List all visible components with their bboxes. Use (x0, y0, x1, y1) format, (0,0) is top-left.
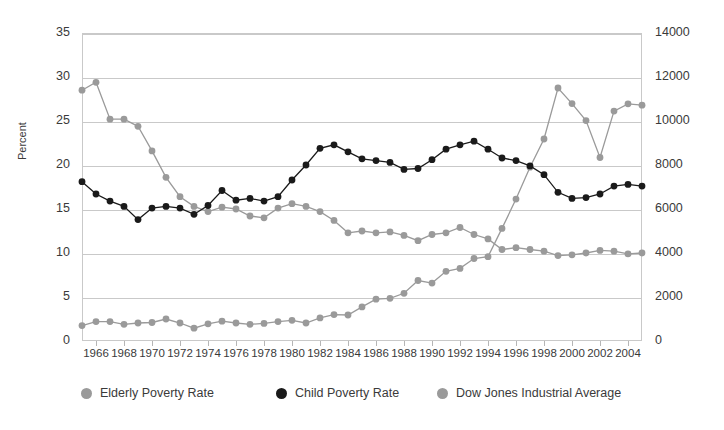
series-child-poverty-rate (79, 138, 646, 223)
data-point (93, 191, 100, 198)
data-point (149, 319, 156, 326)
data-point (177, 193, 184, 200)
data-point (555, 252, 562, 259)
data-point (513, 196, 520, 203)
data-point (317, 208, 324, 215)
legend-marker-icon (437, 388, 448, 399)
data-point (611, 183, 618, 190)
legend-label: Dow Jones Industrial Average (456, 386, 621, 400)
data-point (401, 290, 408, 297)
data-point (443, 268, 450, 275)
data-point (149, 148, 156, 155)
data-point (597, 191, 604, 198)
data-point (163, 203, 170, 210)
data-point (345, 229, 352, 236)
data-point (191, 325, 198, 332)
data-point (93, 79, 100, 86)
data-point (317, 315, 324, 322)
data-point (79, 87, 86, 94)
data-point (555, 189, 562, 196)
data-point (107, 198, 114, 205)
chart-legend: Elderly Poverty RateChild Poverty RateDo… (0, 383, 724, 407)
data-point (261, 198, 268, 205)
data-point (499, 246, 506, 253)
data-point (331, 217, 338, 224)
data-point (527, 163, 534, 170)
data-point (331, 311, 338, 318)
data-point (597, 247, 604, 254)
data-point (247, 321, 254, 328)
legend-item-child-poverty-rate[interactable]: Child Poverty Rate (276, 386, 399, 400)
data-point (233, 206, 240, 213)
data-point (177, 205, 184, 212)
data-point (345, 312, 352, 319)
data-point (359, 304, 366, 311)
data-point (317, 145, 324, 152)
data-point (107, 116, 114, 123)
data-point (443, 146, 450, 153)
data-point (233, 320, 240, 327)
data-point (639, 102, 646, 109)
data-point (135, 320, 142, 327)
data-point (331, 141, 338, 148)
data-point (583, 250, 590, 257)
data-point (569, 195, 576, 202)
data-point (191, 203, 198, 210)
legend-label: Elderly Poverty Rate (100, 386, 214, 400)
data-point (499, 225, 506, 232)
data-point (79, 322, 86, 329)
chart-root: Percent 05101520253035 02000400060008000… (0, 0, 724, 430)
data-point (219, 318, 226, 325)
data-point (303, 320, 310, 327)
data-point (471, 231, 478, 238)
data-point (429, 280, 436, 287)
data-point (513, 157, 520, 164)
data-point (583, 194, 590, 201)
data-point (135, 216, 142, 223)
data-point (387, 229, 394, 236)
data-point (93, 318, 100, 325)
data-point (401, 166, 408, 173)
data-point (457, 224, 464, 231)
legend-item-dow-jones-industrial-average[interactable]: Dow Jones Industrial Average (437, 386, 621, 400)
data-point (541, 171, 548, 178)
series-elderly-poverty-rate (79, 79, 646, 259)
data-point (429, 231, 436, 238)
data-point (611, 108, 618, 115)
data-point (485, 146, 492, 153)
series-layer (0, 0, 724, 430)
data-point (443, 229, 450, 236)
data-point (247, 195, 254, 202)
data-point (219, 204, 226, 211)
data-point (359, 155, 366, 162)
data-point (541, 248, 548, 255)
data-point (499, 155, 506, 162)
data-point (485, 253, 492, 260)
data-point (569, 251, 576, 258)
data-point (275, 193, 282, 200)
legend-item-elderly-poverty-rate[interactable]: Elderly Poverty Rate (81, 386, 214, 400)
data-point (541, 136, 548, 143)
data-point (513, 244, 520, 251)
data-point (597, 154, 604, 161)
data-point (219, 187, 226, 194)
data-point (233, 197, 240, 204)
data-point (401, 232, 408, 239)
data-point (107, 318, 114, 325)
data-point (163, 316, 170, 323)
data-point (527, 246, 534, 253)
data-point (163, 174, 170, 181)
data-point (303, 203, 310, 210)
data-point (345, 148, 352, 155)
data-point (205, 202, 212, 209)
legend-marker-icon (81, 388, 92, 399)
data-point (471, 138, 478, 145)
data-point (149, 205, 156, 212)
data-point (625, 181, 632, 188)
data-point (205, 208, 212, 215)
data-point (625, 100, 632, 107)
data-point (121, 203, 128, 210)
data-point (135, 123, 142, 130)
data-point (639, 183, 646, 190)
data-point (79, 178, 86, 185)
